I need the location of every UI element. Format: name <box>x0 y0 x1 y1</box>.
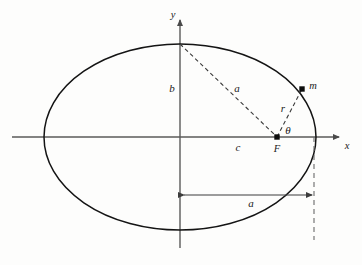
x-axis-label: x <box>345 141 350 152</box>
y-axis-label: y <box>171 10 176 21</box>
mass-point-label: m <box>309 81 317 92</box>
figure-canvas <box>0 0 362 265</box>
semi-major-dashed-segment <box>180 44 277 137</box>
focus-point-marker <box>274 134 279 139</box>
semi-minor-label: b <box>169 83 175 94</box>
focal-distance-label: c <box>236 142 241 153</box>
focus-point-label: F <box>274 144 280 155</box>
radius-label: r <box>281 103 285 114</box>
ellipse-orbit-figure: x y F m a r b c θ a <box>0 0 362 265</box>
semi-major-dimension-label: a <box>248 198 254 209</box>
mass-point-marker <box>299 86 304 91</box>
angle-label: θ <box>285 125 290 136</box>
semi-major-dashed-label: a <box>234 83 240 94</box>
